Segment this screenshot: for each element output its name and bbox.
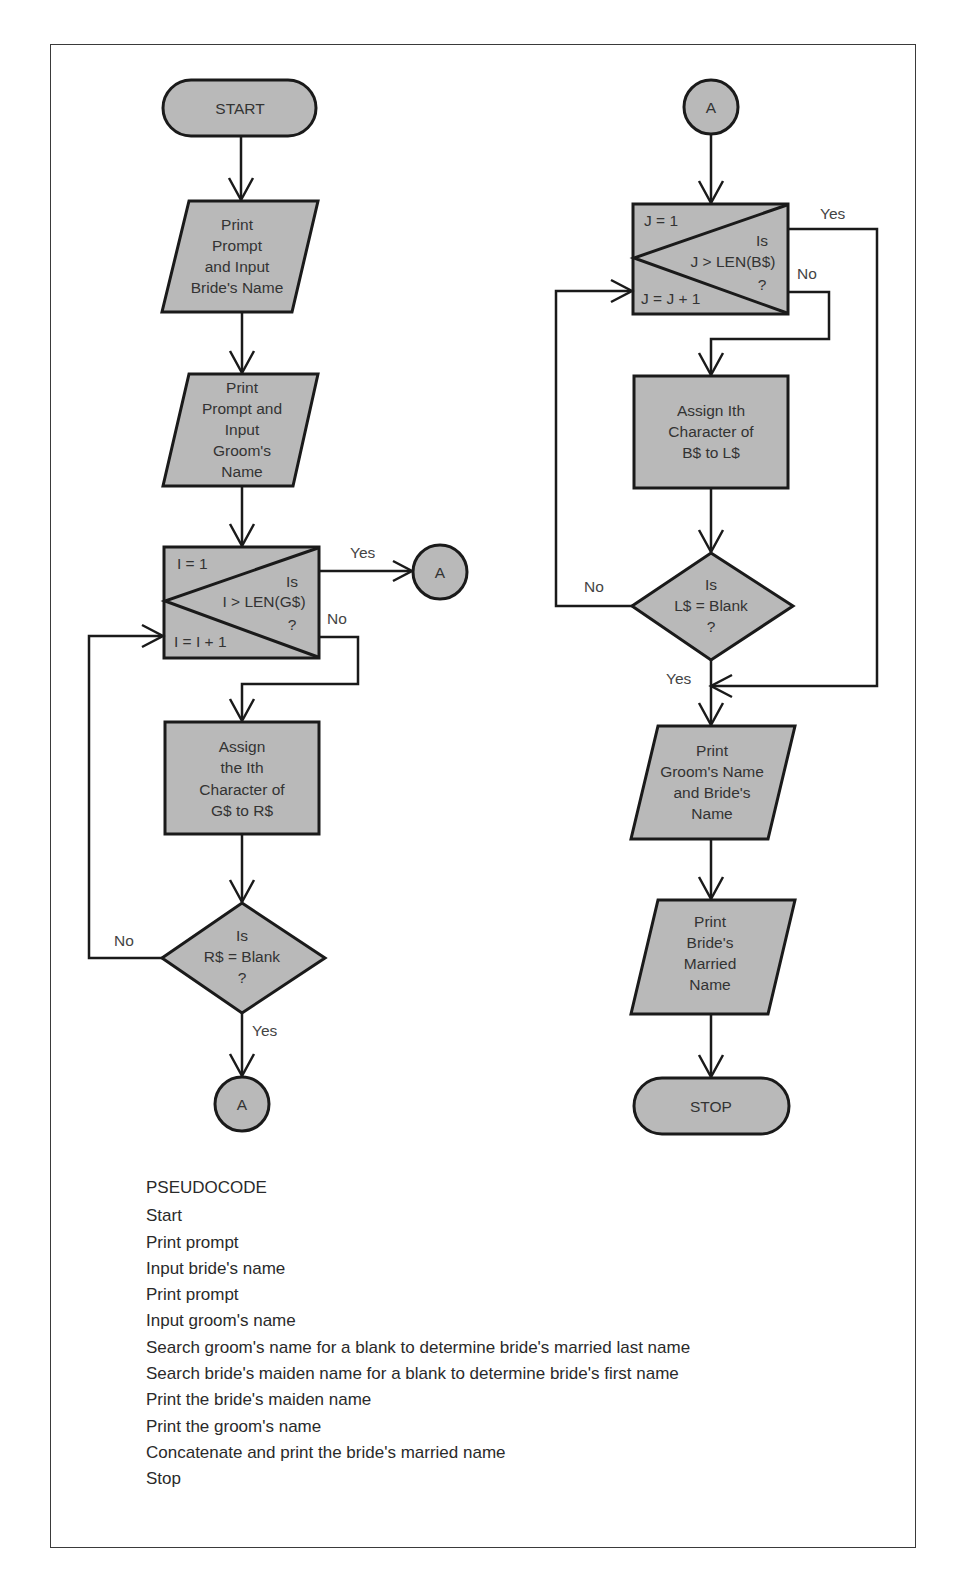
assign-box-left: Assign the Ith Character of G$ to R$ bbox=[165, 722, 319, 834]
connector-label: A bbox=[237, 1096, 248, 1113]
node-line: Bride's bbox=[687, 934, 734, 951]
yes-label: Yes bbox=[252, 1022, 278, 1039]
node-line: and Input bbox=[205, 258, 270, 275]
start-label: START bbox=[215, 100, 265, 117]
node-line: ? bbox=[288, 616, 297, 633]
node-line: Character of bbox=[199, 781, 285, 798]
node-line: Name bbox=[221, 463, 262, 480]
node-line: L$ = Blank bbox=[674, 597, 748, 614]
node-line: Print bbox=[226, 379, 259, 396]
node-line: Name bbox=[689, 976, 730, 993]
assign-box-right: Assign Ith Character of B$ to L$ bbox=[634, 376, 788, 488]
print-names-parallelogram: Print Groom's Name and Bride's Name bbox=[631, 726, 795, 839]
node-line: ? bbox=[758, 276, 767, 293]
pseudocode-line: Concatenate and print the bride's marrie… bbox=[146, 1440, 690, 1466]
start-terminal: START bbox=[163, 80, 316, 136]
node-line: Married bbox=[684, 955, 737, 972]
node-line: Is bbox=[236, 927, 248, 944]
pseudocode-block: PSEUDOCODE Start Print prompt Input brid… bbox=[146, 1175, 690, 1493]
pseudocode-line: Start bbox=[146, 1203, 690, 1229]
pseudocode-line: Search groom's name for a blank to deter… bbox=[146, 1335, 690, 1361]
node-line: Print bbox=[694, 913, 727, 930]
pseudocode-line: Search bride's maiden name for a blank t… bbox=[146, 1361, 690, 1387]
yes-label: Yes bbox=[820, 205, 846, 222]
stop-terminal: STOP bbox=[634, 1078, 789, 1134]
node-line: Input bbox=[225, 421, 260, 438]
node-line: I > LEN(G$) bbox=[222, 593, 305, 610]
node-line: Assign bbox=[219, 738, 266, 755]
node-line: Character of bbox=[668, 423, 754, 440]
node-line: Groom's bbox=[213, 442, 271, 459]
loop-box-j: J = 1 Is J > LEN(B$) ? J = J + 1 bbox=[633, 204, 788, 314]
node-line: Is bbox=[756, 232, 768, 249]
connector-label: A bbox=[706, 99, 717, 116]
node-line: ? bbox=[238, 969, 247, 986]
no-label: No bbox=[114, 932, 134, 949]
node-line: Print bbox=[221, 216, 254, 233]
input-groom-parallelogram: Print Prompt and Input Groom's Name bbox=[163, 374, 318, 486]
loop-init-label: J = 1 bbox=[644, 212, 678, 229]
node-line: Name bbox=[691, 805, 732, 822]
node-line: Print bbox=[696, 742, 729, 759]
node-line: B$ to L$ bbox=[682, 444, 740, 461]
node-line: Bride's Name bbox=[191, 279, 284, 296]
loop-init-label: I = 1 bbox=[177, 555, 208, 572]
node-line: G$ to R$ bbox=[211, 802, 273, 819]
node-line: Is bbox=[286, 573, 298, 590]
pseudocode-line: Stop bbox=[146, 1466, 690, 1492]
node-line: ? bbox=[707, 618, 716, 635]
no-label: No bbox=[584, 578, 604, 595]
loop-increment-label: I = I + 1 bbox=[174, 633, 227, 650]
pseudocode-line: Print prompt bbox=[146, 1230, 690, 1256]
pseudocode-line: Input groom's name bbox=[146, 1308, 690, 1334]
decision-diamond-left: Is R$ = Blank ? bbox=[162, 903, 325, 1013]
input-bride-parallelogram: Print Prompt and Input Bride's Name bbox=[162, 201, 318, 312]
loop-box-i: I = 1 Is I > LEN(G$) ? I = I + 1 bbox=[164, 547, 319, 658]
connector-a-left: A bbox=[413, 545, 467, 599]
node-line: J > LEN(B$) bbox=[691, 253, 776, 270]
decision-diamond-right: Is L$ = Blank ? bbox=[632, 553, 793, 660]
pseudocode-line: Print the groom's name bbox=[146, 1414, 690, 1440]
node-line: Assign Ith bbox=[677, 402, 745, 419]
pseudocode-line: Print the bride's maiden name bbox=[146, 1387, 690, 1413]
stop-label: STOP bbox=[690, 1098, 732, 1115]
pseudocode-line: Print prompt bbox=[146, 1282, 690, 1308]
node-line: the Ith bbox=[220, 759, 263, 776]
connector-a-bottom: A bbox=[215, 1077, 269, 1131]
print-married-parallelogram: Print Bride's Married Name bbox=[631, 900, 795, 1014]
node-line: Prompt and bbox=[202, 400, 282, 417]
no-label: No bbox=[327, 610, 347, 627]
pseudocode-line: Input bride's name bbox=[146, 1256, 690, 1282]
yes-label: Yes bbox=[350, 544, 376, 561]
connector-a-top: A bbox=[684, 80, 738, 134]
node-line: Groom's Name bbox=[660, 763, 764, 780]
node-line: Is bbox=[705, 576, 717, 593]
pseudocode-title: PSEUDOCODE bbox=[146, 1175, 690, 1201]
connector-label: A bbox=[435, 564, 446, 581]
no-label: No bbox=[797, 265, 817, 282]
yes-label: Yes bbox=[666, 670, 692, 687]
node-line: and Bride's bbox=[673, 784, 750, 801]
node-line: R$ = Blank bbox=[204, 948, 281, 965]
loop-increment-label: J = J + 1 bbox=[641, 290, 700, 307]
node-line: Prompt bbox=[212, 237, 263, 254]
